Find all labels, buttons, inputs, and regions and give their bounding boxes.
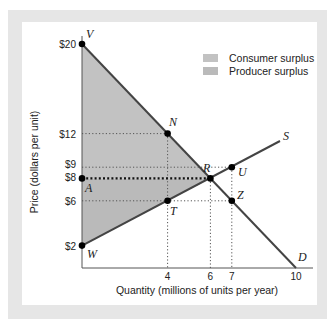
point-v xyxy=(79,41,86,48)
point-u xyxy=(229,164,236,171)
x-axis-label: Quantity (millions of units per year) xyxy=(116,284,278,296)
x-tick-4: 4 xyxy=(165,271,171,282)
y-tick-12: $12 xyxy=(59,129,76,140)
x-tick-7: 7 xyxy=(229,271,235,282)
point-z xyxy=(229,198,236,205)
label-r: R xyxy=(202,161,211,175)
y-tick-6: $6 xyxy=(65,196,77,207)
label-a: A xyxy=(84,181,93,195)
x-tick-10: 10 xyxy=(290,271,302,282)
y-tick-9: $9 xyxy=(65,159,77,170)
legend: Consumer surplus Producer surplus xyxy=(203,52,314,77)
point-n xyxy=(164,130,171,137)
label-s: S xyxy=(283,129,289,143)
y-tick-20: $20 xyxy=(59,39,76,50)
label-t: T xyxy=(170,204,178,218)
label-z: Z xyxy=(237,188,244,202)
point-r xyxy=(207,175,214,182)
point-w xyxy=(79,242,86,249)
legend-producer-label: Producer surplus xyxy=(229,65,308,77)
label-u: U xyxy=(238,165,248,179)
y-tick-8: $8 xyxy=(65,172,77,183)
legend-swatch-producer xyxy=(203,67,218,75)
label-w: W xyxy=(87,247,98,261)
label-d: D xyxy=(297,250,307,264)
label-v: V xyxy=(86,27,95,41)
y-axis-label: Price (dollars per unit) xyxy=(28,111,40,214)
x-tick-6: 6 xyxy=(208,271,214,282)
y-tick-2: $2 xyxy=(65,241,77,252)
legend-consumer-label: Consumer surplus xyxy=(229,52,314,64)
surplus-chart: V N R U Z T A W S D $20 $12 $9 $8 $6 $2 … xyxy=(0,0,327,321)
legend-swatch-consumer xyxy=(203,54,218,62)
label-n: N xyxy=(168,115,178,129)
